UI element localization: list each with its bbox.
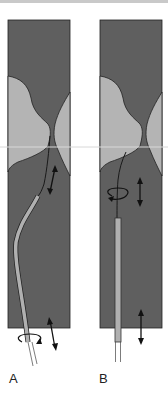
catheter-b [115,218,121,342]
vessel-b [100,20,162,328]
stenosis-diagram [0,0,168,395]
panel-a [8,20,70,366]
panel-b [100,20,162,362]
panel-b-label: B [99,371,108,386]
panel-a-label: A [9,371,18,386]
